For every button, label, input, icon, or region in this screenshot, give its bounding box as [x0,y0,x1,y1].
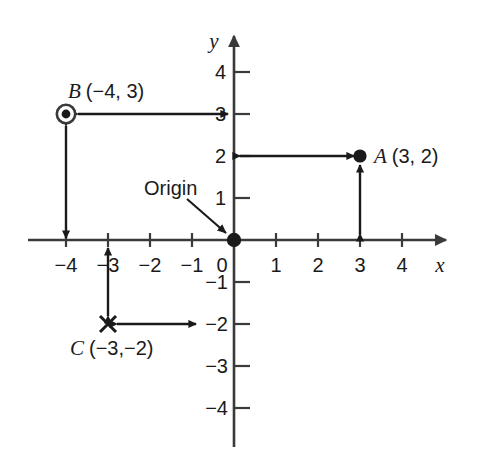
y-tick-label--3: −3 [205,355,228,377]
point-a-label: A(3, 2) [372,144,439,168]
x-tick-label-3: 3 [354,254,365,276]
y-axis-label: y [207,29,219,53]
x-tick-label--4: −4 [55,254,78,276]
x-tick-label--2: −2 [139,254,162,276]
y-tick-label-4: 4 [215,61,226,83]
point-b-connectors [66,114,228,238]
point-b-letter: B [68,79,81,103]
point-c-letter: C [70,336,85,360]
point-a-coords: (3, 2) [392,145,439,167]
point-c-label: C(−3,−2) [70,336,154,360]
point-c-coords: (−3,−2) [89,337,153,359]
point-a-connectors [240,156,360,234]
origin-marker [227,233,241,247]
coordinate-plane-svg: −4 −3 −2 −1 0 1 2 3 4 4 3 2 1 −1 −2 −3 −… [0,0,481,463]
y-tick-label--1: −1 [205,271,228,293]
x-tick-label-1: 1 [270,254,281,276]
point-b-coords: (−4, 3) [86,80,144,102]
y-tick-label--4: −4 [205,397,228,419]
coordinate-plane-figure: −4 −3 −2 −1 0 1 2 3 4 4 3 2 1 −1 −2 −3 −… [0,0,481,463]
point-a-letter: A [372,144,387,168]
y-tick-label-2: 2 [215,145,226,167]
x-axis-label: x [434,253,445,277]
x-tick-label-4: 4 [396,254,407,276]
point-b-label: B(−4, 3) [68,79,144,103]
point-a-marker [353,149,366,162]
x-tick-label-2: 2 [312,254,323,276]
origin-label: Origin [144,177,197,199]
point-c-marker [100,316,116,332]
point-b-marker [57,105,75,123]
y-tick-label-1: 1 [215,187,226,209]
y-tick-label--2: −2 [205,313,228,335]
x-tick-label--1: −1 [181,254,204,276]
